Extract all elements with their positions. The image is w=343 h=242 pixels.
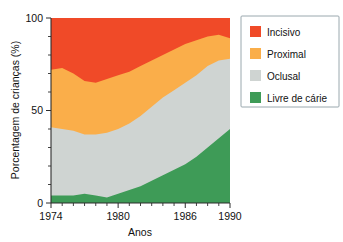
legend-label-incisivo: Incisivo <box>267 27 301 38</box>
y-axis-ticks <box>46 18 51 203</box>
legend-swatch-proximal <box>250 48 261 59</box>
chart-canvas: 050100 1974198019861990 Porcentagem de c… <box>0 0 343 242</box>
y-axis-title: Porcentagem de crianças (%) <box>9 41 21 179</box>
x-axis-tick-labels: 1974198019861990 <box>39 210 242 222</box>
x-axis-title: Anos <box>128 226 152 238</box>
legend-swatch-livre-de-cárie <box>250 92 261 103</box>
legend-label-livre-de-cárie: Livre de cárie <box>267 93 327 104</box>
y-tick-label-50: 50 <box>31 104 43 116</box>
legend-label-oclusal: Oclusal <box>267 71 300 82</box>
x-axis-ticks <box>51 203 230 208</box>
legend-label-proximal: Proximal <box>267 49 306 60</box>
x-tick-label-1986: 1986 <box>174 210 198 222</box>
x-tick-label-1974: 1974 <box>39 210 63 222</box>
y-tick-label-0: 0 <box>37 197 43 209</box>
stacked-area-chart: 050100 1974198019861990 Porcentagem de c… <box>0 0 343 242</box>
legend-swatch-incisivo <box>250 26 261 37</box>
x-tick-label-1980: 1980 <box>106 210 130 222</box>
y-axis-tick-labels: 050100 <box>25 12 43 209</box>
legend: IncisivoProximalOclusalLivre de cárie <box>241 16 339 107</box>
legend-swatch-oclusal <box>250 70 261 81</box>
area-series-group <box>51 18 230 203</box>
y-tick-label-100: 100 <box>25 12 43 24</box>
x-tick-label-1990: 1990 <box>218 210 242 222</box>
